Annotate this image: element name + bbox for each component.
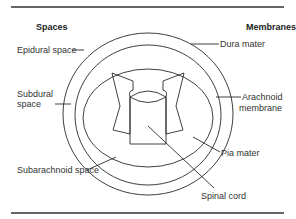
label-epidural-space: Epidural space: [17, 45, 77, 55]
spinal-cord-leader: [148, 126, 214, 188]
label-subdural-space-2: space: [17, 99, 41, 109]
label-arachnoid-membrane-1: Arachnoid: [242, 92, 283, 102]
membranes-header: Membranes: [246, 22, 296, 32]
label-dura-mater: Dura mater: [220, 39, 265, 49]
label-spinal-cord: Spinal cord: [201, 191, 246, 201]
label-arachnoid-membrane-2: membrane: [239, 103, 282, 113]
pia-mater-ellipse: [83, 69, 213, 167]
label-subdural-space-1: Subdural: [17, 89, 53, 99]
label-pia-mater: Pia mater: [221, 148, 260, 158]
arachnoid-membrane-ellipse: [75, 45, 221, 185]
meninges-diagram: Spaces Membranes Epidural space Subdural…: [0, 0, 296, 219]
spaces-header: Spaces: [36, 22, 68, 32]
spinal-cord-shape: [112, 73, 184, 144]
label-subarachnoid-space: Subarachnoid space: [17, 165, 99, 175]
